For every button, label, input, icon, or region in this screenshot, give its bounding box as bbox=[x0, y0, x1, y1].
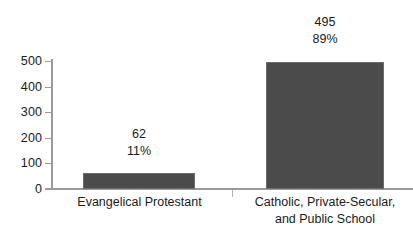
bar-value-catholic: 495 bbox=[266, 14, 384, 31]
category-label-catholic-line-2: and Public School bbox=[237, 211, 413, 228]
y-axis-label-0: 0 bbox=[2, 182, 42, 196]
category-separator-tick bbox=[232, 190, 233, 197]
y-axis-label-400: 400 bbox=[2, 80, 42, 94]
y-axis-label-300: 300 bbox=[2, 105, 42, 119]
bar-catholic-private-public[interactable] bbox=[266, 62, 384, 189]
y-axis-label-200: 200 bbox=[2, 131, 42, 145]
category-label-catholic: Catholic, Private-Secular, and Public Sc… bbox=[237, 194, 413, 228]
y-tick-100 bbox=[45, 163, 51, 164]
bar-value-evangelical: 62 bbox=[83, 126, 195, 143]
bar-percent-evangelical: 11% bbox=[83, 143, 195, 160]
y-axis-label-100: 100 bbox=[2, 156, 42, 170]
category-label-evangelical-line-1: Evangelical Protestant bbox=[52, 194, 227, 211]
y-tick-400 bbox=[45, 87, 51, 88]
bar-value-label-evangelical: 62 11% bbox=[83, 126, 195, 160]
category-label-evangelical: Evangelical Protestant bbox=[52, 194, 227, 211]
bar-evangelical-protestant[interactable] bbox=[83, 173, 195, 189]
y-tick-0 bbox=[45, 189, 51, 190]
y-tick-300 bbox=[45, 112, 51, 113]
y-axis-label-500: 500 bbox=[2, 54, 42, 68]
category-label-catholic-line-1: Catholic, Private-Secular, bbox=[237, 194, 413, 211]
bar-percent-catholic: 89% bbox=[266, 31, 384, 48]
y-axis-line bbox=[51, 59, 53, 190]
bar-value-label-catholic: 495 89% bbox=[266, 14, 384, 48]
y-tick-200 bbox=[45, 138, 51, 139]
y-tick-500 bbox=[45, 61, 51, 62]
bar-chart: 500 400 300 200 100 0 62 11% 495 89% Eva… bbox=[0, 0, 413, 230]
